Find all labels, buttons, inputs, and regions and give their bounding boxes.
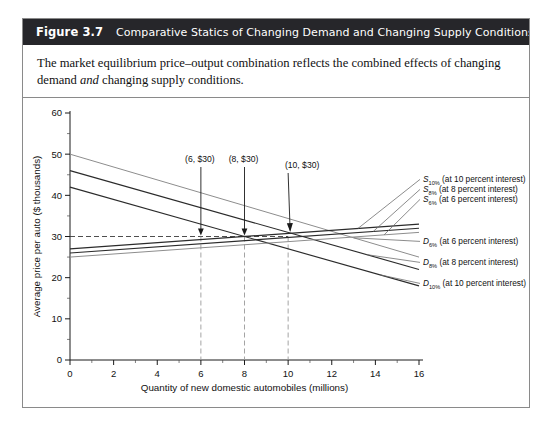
leader-D_8% bbox=[367, 255, 420, 263]
x-tick-label: 8 bbox=[242, 368, 247, 379]
x-tick-label: 4 bbox=[155, 368, 160, 379]
caption-emphasis: and bbox=[80, 73, 99, 87]
leader-D_10% bbox=[380, 275, 420, 284]
caption-text-part2: changing supply conditions. bbox=[99, 73, 244, 87]
equilibrium-annotation: (10, $30) bbox=[285, 160, 320, 170]
leader-S_10% bbox=[358, 180, 420, 229]
y-tick-label: 50 bbox=[51, 149, 62, 160]
figure-title: Comparative Statics of Changing Demand a… bbox=[116, 26, 529, 39]
figure-caption: The market equilibrium price–output comb… bbox=[23, 45, 529, 98]
y-tick-label: 40 bbox=[51, 190, 62, 201]
equilibrium-annotation: (6, $30) bbox=[185, 154, 215, 164]
figure-container: Figure 3.7 Comparative Statics of Changi… bbox=[22, 18, 530, 408]
figure-header-bar: Figure 3.7 Comparative Statics of Changi… bbox=[23, 19, 529, 45]
x-tick-label: 10 bbox=[283, 368, 294, 379]
annotation-arrow-line bbox=[288, 173, 290, 231]
x-axis-title: Quantity of new domestic automobiles (mi… bbox=[141, 382, 348, 393]
x-tick-label: 16 bbox=[414, 368, 425, 379]
y-tick-label: 30 bbox=[51, 231, 62, 242]
x-tick-label: 14 bbox=[370, 368, 381, 379]
equilibrium-annotation: (8, $30) bbox=[229, 154, 259, 164]
x-tick-label: 0 bbox=[67, 368, 72, 379]
figure-number: Figure 3.7 bbox=[36, 25, 103, 39]
y-tick-label: 0 bbox=[57, 355, 62, 366]
series-label-D_6%: D6% (at 6 percent interest) bbox=[423, 236, 518, 248]
x-tick-label: 6 bbox=[198, 368, 203, 379]
supply-demand-chart: 01020304050600246810121416Quantity of ne… bbox=[23, 98, 529, 404]
series-label-D_8%: D8% (at 8 percent interest) bbox=[423, 257, 518, 269]
series-label-D_10%: D10% (at 10 percent interest) bbox=[423, 278, 526, 290]
annotation-arrow-head bbox=[287, 223, 293, 232]
annotation-arrow-head bbox=[242, 229, 248, 236]
x-tick-label: 2 bbox=[111, 368, 116, 379]
annotation-arrow-head bbox=[198, 229, 204, 236]
series-label-S_6%: S6% (at 6 percent interest) bbox=[423, 194, 518, 206]
chart-area: 01020304050600246810121416Quantity of ne… bbox=[23, 98, 529, 407]
y-tick-label: 60 bbox=[51, 108, 62, 119]
y-axis-title: Average price per auto ($ thousands) bbox=[31, 156, 42, 318]
y-tick-label: 10 bbox=[51, 313, 62, 324]
x-tick-label: 12 bbox=[326, 368, 337, 379]
y-tick-label: 20 bbox=[51, 272, 62, 283]
